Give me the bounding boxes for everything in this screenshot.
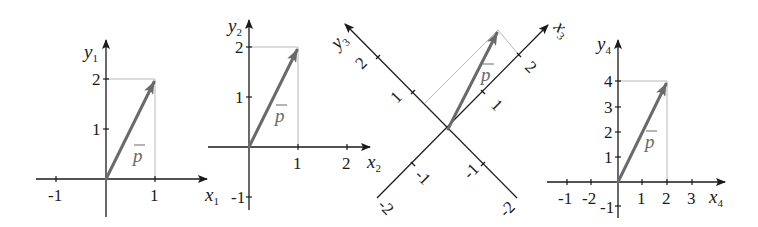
- tick-label: -2: [582, 189, 596, 208]
- x4-axis-label: x4: [708, 186, 723, 209]
- y4-axis-label: y4: [595, 33, 611, 56]
- vector-p-arrow: [106, 82, 154, 179]
- vector-p-label: p: [479, 64, 491, 85]
- tick-label: 1: [235, 88, 244, 107]
- tick-label: -2: [374, 195, 397, 218]
- helper-line-to-x3: [498, 30, 519, 55]
- tick-label: -1: [459, 159, 482, 182]
- tick-label: 1: [487, 95, 506, 114]
- x2-axis-label: x2: [366, 151, 381, 174]
- tick-label: 3: [604, 98, 613, 117]
- vector-p-arrow: [249, 50, 297, 147]
- y1-axis-label: y1: [82, 41, 98, 64]
- tick-label: 4: [604, 72, 613, 91]
- tick-label: 2: [662, 189, 671, 208]
- vector-p-label: p: [643, 131, 655, 152]
- tick-label: -1: [411, 165, 434, 188]
- tick-label: 1: [604, 148, 613, 167]
- tick-label: -1: [48, 186, 62, 205]
- tick-label: 2: [342, 154, 351, 173]
- tick-label: -1: [231, 188, 245, 207]
- tick-label: 1: [386, 87, 405, 106]
- tick-label: 2: [92, 70, 101, 89]
- tick-label: 1: [637, 189, 646, 208]
- y2-axis-label: y2: [226, 15, 242, 38]
- tick-label: 2: [235, 38, 244, 57]
- x3-axis-label: x3: [548, 15, 575, 42]
- x1-axis-label: x1: [204, 184, 219, 207]
- diagram-1: -1 1 1 2 y1 x1 p: [36, 40, 219, 217]
- tick-label: 1: [293, 154, 302, 173]
- y3-axis-label: y3: [325, 28, 353, 56]
- tick-label: -2: [495, 197, 518, 220]
- tick: [411, 162, 415, 166]
- vector-p-label: p: [131, 145, 143, 166]
- tick-label: 1: [92, 120, 101, 139]
- vector-p-arrow: [618, 84, 666, 182]
- vector-p-label: p: [273, 105, 285, 126]
- tick-label: -1: [600, 198, 614, 217]
- diagram-3: 1 2 -1 -2 1 2 -1 -2 y3 x3 p: [325, 15, 576, 221]
- tick-label: 2: [351, 53, 370, 72]
- diagram-4: -1 -2 1 2 3 -1 1 2 3 4 y4 x4 p: [547, 33, 725, 218]
- coordinate-systems-figure: -1 1 1 2 y1 x1 p 1 2 -1 1 2 y2 x2 p: [0, 0, 758, 227]
- tick-label: 2: [521, 57, 540, 76]
- tick-label: 2: [604, 123, 613, 142]
- diagram-2: 1 2 -1 1 2 y2 x2 p: [208, 15, 381, 210]
- tick-label: -1: [558, 189, 572, 208]
- tick-label: 3: [687, 189, 696, 208]
- tick-label: 1: [150, 186, 159, 205]
